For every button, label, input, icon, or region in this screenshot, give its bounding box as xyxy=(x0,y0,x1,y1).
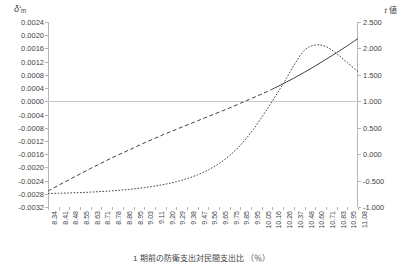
y-axis-left-tick-label: 0.0012 xyxy=(21,57,44,66)
x-axis-tick xyxy=(80,207,81,210)
y-axis-left-tick-label: -0.0004 xyxy=(19,110,44,119)
y-axis-right-tick-label: 2.000 xyxy=(363,44,382,53)
x-axis-tick-label: 10.05 xyxy=(265,211,272,229)
x-axis-tick-label: 10.16 xyxy=(275,211,282,229)
x-axis-tick-label: 8.71 xyxy=(104,211,111,225)
x-axis-tick xyxy=(176,207,177,210)
x-axis-tick-label: 9.95 xyxy=(254,211,261,225)
x-axis-tick xyxy=(155,207,156,210)
y-axis-right-tick xyxy=(358,181,361,182)
y-axis-left-tick-label: -0.0032 xyxy=(19,203,44,212)
x-axis-tick xyxy=(59,207,60,210)
y-axis-left-title: δ'm xyxy=(14,4,26,14)
x-axis-tick xyxy=(198,207,199,210)
series-line-delta-m-dashed xyxy=(48,89,272,191)
x-axis-tick-label: 8.78 xyxy=(115,211,122,225)
x-axis-tick-label: 9.47 xyxy=(201,211,208,225)
x-axis-tick-label: 8.55 xyxy=(83,211,90,225)
y-axis-right-title: t 値 xyxy=(385,4,397,15)
x-axis-tick-label: 10.37 xyxy=(297,211,304,229)
x-axis-tick-label: 9.38 xyxy=(190,211,197,225)
x-axis-tick xyxy=(315,207,316,210)
series-layer xyxy=(48,22,358,207)
x-axis-tick-label: 9.75 xyxy=(233,211,240,225)
y-axis-left-tick-label: -0.0012 xyxy=(19,136,44,145)
x-axis-tick xyxy=(262,207,263,210)
x-axis-tick-label: 9.11 xyxy=(158,211,165,224)
x-axis-tick xyxy=(101,207,102,210)
x-axis-tick xyxy=(337,207,338,210)
x-axis-tick xyxy=(48,207,49,210)
x-axis-tick xyxy=(134,207,135,210)
y-axis-left-tick-label: 0.0004 xyxy=(21,84,44,93)
x-axis-tick-label: 10.83 xyxy=(340,211,347,229)
x-axis-tick xyxy=(240,207,241,210)
x-axis-tick xyxy=(251,207,252,210)
x-axis-tick xyxy=(112,207,113,210)
y-axis-left-tick-label: -0.0016 xyxy=(19,150,44,159)
x-axis-tick xyxy=(144,207,145,210)
x-axis-tick-label: 10.95 xyxy=(350,211,357,229)
y-axis-left-tick-label: -0.0024 xyxy=(19,176,44,185)
y-axis-right-tick xyxy=(358,22,361,23)
x-axis-tick-label: 8.48 xyxy=(72,211,79,225)
y-axis-right-tick xyxy=(358,75,361,76)
y-axis-right-tick-label: 2.500 xyxy=(363,18,382,27)
x-axis-tick-label: 9.56 xyxy=(211,211,218,225)
y-axis-right-tick-label: -0.500 xyxy=(363,176,384,185)
y-axis-right-tick xyxy=(358,128,361,129)
y-axis-right-tick xyxy=(358,101,361,102)
x-axis-tick-label: 8.95 xyxy=(137,211,144,225)
chart-container: δ'm t 値 0.00240.00200.00160.00120.00080.… xyxy=(0,0,403,265)
x-axis-tick xyxy=(347,207,348,210)
x-axis-tick-label: 9.85 xyxy=(243,211,250,225)
plot-area: 0.00240.00200.00160.00120.00080.00040.00… xyxy=(48,22,358,207)
x-axis-tick-label: 9.03 xyxy=(147,211,154,225)
y-axis-left-tick-label: 0.0024 xyxy=(21,18,44,27)
x-axis-tick-label: 8.41 xyxy=(62,211,69,225)
x-axis-tick xyxy=(91,207,92,210)
y-axis-right-tick-label: 1.500 xyxy=(363,70,382,79)
x-axis-tick xyxy=(166,207,167,210)
y-axis-left-symbol: δ' xyxy=(14,4,21,14)
x-axis-title: 1 期前の防衛支出対民間支出比 （％） xyxy=(0,252,403,263)
y-axis-left-tick-label: -0.0020 xyxy=(19,163,44,172)
x-axis-tick xyxy=(358,207,359,210)
y-axis-right-tick xyxy=(358,154,361,155)
y-axis-left-tick-label: 0.0020 xyxy=(21,31,44,40)
x-axis-tick-label: 8.63 xyxy=(94,211,101,225)
y-axis-right-tick-label: 1.000 xyxy=(363,97,382,106)
x-axis-tick xyxy=(294,207,295,210)
x-axis-tick xyxy=(230,207,231,210)
x-axis-tick-label: 9.29 xyxy=(179,211,186,225)
x-axis-tick xyxy=(187,207,188,210)
x-axis-tick-label: 9.65 xyxy=(222,211,229,225)
y-axis-right-tick-label: 0.500 xyxy=(363,123,382,132)
y-axis-left-tick-label: -0.0028 xyxy=(19,189,44,198)
x-axis-tick xyxy=(69,207,70,210)
x-axis-tick xyxy=(208,207,209,210)
x-axis-tick xyxy=(326,207,327,210)
x-axis-tick-label: 10.60 xyxy=(318,211,325,229)
y-axis-left-subscript: m xyxy=(21,7,26,14)
y-axis-right-tick-label: 0.000 xyxy=(363,150,382,159)
series-line-delta-m-solid xyxy=(272,39,358,90)
x-axis-tick-label: 8.34 xyxy=(51,211,58,225)
y-axis-left-tick-label: 0.0016 xyxy=(21,44,44,53)
y-axis-right-tick xyxy=(358,48,361,49)
x-axis-tick-label: 11.08 xyxy=(361,211,368,228)
y-axis-left-tick-label: 0.0000 xyxy=(21,97,44,106)
y-axis-right-text: 値 xyxy=(387,6,397,15)
x-axis-tick xyxy=(283,207,284,210)
x-axis-tick-label: 9.20 xyxy=(169,211,176,225)
x-axis-tick-label: 8.86 xyxy=(126,211,133,225)
y-axis-left-tick-label: 0.0008 xyxy=(21,70,44,79)
x-axis-tick-label: 10.26 xyxy=(286,211,293,229)
x-axis-tick-label: 10.48 xyxy=(308,211,315,229)
x-axis-tick xyxy=(219,207,220,210)
x-axis-tick xyxy=(305,207,306,210)
x-axis-tick xyxy=(272,207,273,210)
y-axis-left-tick-label: -0.0008 xyxy=(19,123,44,132)
x-axis-tick xyxy=(123,207,124,210)
series-line-t-value xyxy=(48,45,358,194)
